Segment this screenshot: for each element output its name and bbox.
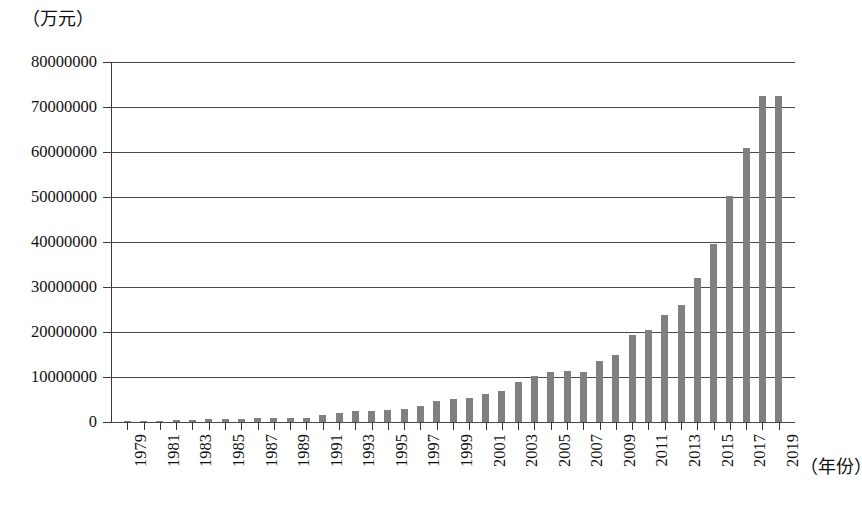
gridline bbox=[111, 197, 795, 198]
bar bbox=[694, 278, 701, 422]
x-axis-tick-label: 1987 bbox=[264, 434, 280, 467]
x-axis-tick-mark bbox=[697, 422, 698, 430]
x-axis-tick-label: 2019 bbox=[785, 434, 801, 467]
x-axis-tick-label: 1997 bbox=[426, 434, 442, 467]
bar bbox=[678, 305, 685, 422]
bar bbox=[564, 371, 571, 422]
bar bbox=[775, 96, 782, 422]
gridline bbox=[111, 287, 795, 288]
x-axis-tick-label: 2001 bbox=[492, 434, 508, 467]
x-axis-tick-label: 2003 bbox=[524, 434, 540, 467]
y-axis-tick-mark bbox=[103, 62, 111, 63]
gridline bbox=[111, 152, 795, 153]
x-axis-tick-label: 1989 bbox=[296, 434, 312, 467]
y-axis-tick-mark bbox=[103, 287, 111, 288]
bar bbox=[319, 415, 326, 422]
x-axis-tick-label: 1979 bbox=[133, 434, 149, 467]
y-axis-tick-label: 30000000 bbox=[0, 279, 97, 295]
x-axis-tick-label: 2007 bbox=[589, 434, 605, 467]
bar bbox=[384, 410, 391, 422]
x-axis-tick-label: 1991 bbox=[329, 434, 345, 467]
x-axis-tick-mark bbox=[714, 422, 715, 430]
x-axis-tick-mark bbox=[274, 422, 275, 430]
x-axis-tick-mark bbox=[323, 422, 324, 430]
bar bbox=[645, 330, 652, 422]
bar bbox=[450, 399, 457, 422]
x-axis-tick-mark bbox=[127, 422, 128, 430]
y-axis-tick-mark bbox=[103, 152, 111, 153]
x-axis-tick-mark bbox=[290, 422, 291, 430]
x-axis-tick-mark bbox=[551, 422, 552, 430]
chart-figure: （万元） 80000000700000006000000050000000400… bbox=[0, 0, 862, 518]
x-axis-tick-mark bbox=[648, 422, 649, 430]
gridline bbox=[111, 107, 795, 108]
bar bbox=[580, 372, 587, 422]
x-axis-tick-mark bbox=[144, 422, 145, 430]
x-axis-tick-mark bbox=[388, 422, 389, 430]
x-axis-tick-mark bbox=[762, 422, 763, 430]
x-axis-tick-mark bbox=[779, 422, 780, 430]
x-axis-tick-label: 1985 bbox=[231, 434, 247, 467]
bar bbox=[726, 196, 733, 422]
y-axis-tick-mark bbox=[103, 332, 111, 333]
y-axis-tick-label: 60000000 bbox=[0, 144, 97, 160]
bar bbox=[612, 355, 619, 423]
bar bbox=[482, 394, 489, 422]
bar bbox=[498, 391, 505, 423]
y-axis-unit-caption: （万元） bbox=[22, 4, 94, 30]
y-axis-tick-label: 70000000 bbox=[0, 99, 97, 115]
y-axis-tick-label: 10000000 bbox=[0, 369, 97, 385]
bar bbox=[433, 401, 440, 422]
x-axis-tick-mark bbox=[176, 422, 177, 430]
y-axis-tick-mark bbox=[103, 377, 111, 378]
x-axis-tick-mark bbox=[518, 422, 519, 430]
bar bbox=[531, 376, 538, 422]
y-axis-tick-mark bbox=[103, 242, 111, 243]
x-axis-tick-mark bbox=[681, 422, 682, 430]
x-axis-tick-mark bbox=[534, 422, 535, 430]
bar bbox=[547, 372, 554, 422]
plot-area bbox=[111, 62, 795, 422]
x-axis-tick-mark bbox=[209, 422, 210, 430]
bar bbox=[336, 413, 343, 422]
bar bbox=[596, 361, 603, 422]
x-axis-tick-label: 1981 bbox=[166, 434, 182, 467]
bar bbox=[759, 96, 766, 422]
y-axis-tick-mark bbox=[103, 107, 111, 108]
x-axis-tick-mark bbox=[355, 422, 356, 430]
x-axis-tick-mark bbox=[372, 422, 373, 430]
x-axis-tick-label: 2005 bbox=[557, 434, 573, 467]
x-axis-tick-mark bbox=[486, 422, 487, 430]
x-axis-tick-mark bbox=[567, 422, 568, 430]
bar bbox=[368, 411, 375, 422]
y-axis-tick-label: 40000000 bbox=[0, 234, 97, 250]
x-axis-tick-label: 1983 bbox=[198, 434, 214, 467]
x-axis-tick-mark bbox=[225, 422, 226, 430]
x-axis-tick-label: 1999 bbox=[459, 434, 475, 467]
bar bbox=[417, 406, 424, 422]
gridline bbox=[111, 332, 795, 333]
x-axis-tick-mark bbox=[160, 422, 161, 430]
gridline bbox=[111, 377, 795, 378]
bar bbox=[661, 315, 668, 422]
x-axis-tick-mark bbox=[420, 422, 421, 430]
x-axis-tick-mark bbox=[502, 422, 503, 430]
x-axis-tick-mark bbox=[192, 422, 193, 430]
x-axis-tick-label: 2013 bbox=[687, 434, 703, 467]
x-axis-tick-label: 1995 bbox=[394, 434, 410, 467]
x-axis-tick-label: 2017 bbox=[752, 434, 768, 467]
x-axis-tick-mark bbox=[632, 422, 633, 430]
x-axis-tick-mark bbox=[306, 422, 307, 430]
x-axis-tick-label: 2015 bbox=[720, 434, 736, 467]
gridline bbox=[111, 62, 795, 63]
x-axis-tick-label: 2009 bbox=[622, 434, 638, 467]
x-axis-tick-mark bbox=[469, 422, 470, 430]
y-axis-tick-mark bbox=[103, 422, 111, 423]
y-axis-tick-label: 20000000 bbox=[0, 324, 97, 340]
x-axis-tick-mark bbox=[404, 422, 405, 430]
x-axis-tick-mark bbox=[437, 422, 438, 430]
bar bbox=[352, 411, 359, 422]
x-axis-unit-caption: （年份） bbox=[800, 452, 862, 478]
y-axis-tick-mark bbox=[103, 197, 111, 198]
x-axis-tick-label: 1993 bbox=[361, 434, 377, 467]
